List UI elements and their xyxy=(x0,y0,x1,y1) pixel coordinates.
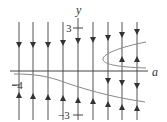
tick-label-a-neg4: −4 xyxy=(11,79,23,91)
phase-lines xyxy=(19,18,137,120)
bifurcation-diagram: y a 3 −3 −4 xyxy=(0,0,167,122)
tick-label-y-3: 3 xyxy=(66,22,72,34)
a-axis-label: a xyxy=(152,65,158,79)
tick-label-y-neg3: −3 xyxy=(58,109,70,121)
y-axis-label: y xyxy=(75,3,82,17)
equilibrium-curves xyxy=(14,42,146,102)
